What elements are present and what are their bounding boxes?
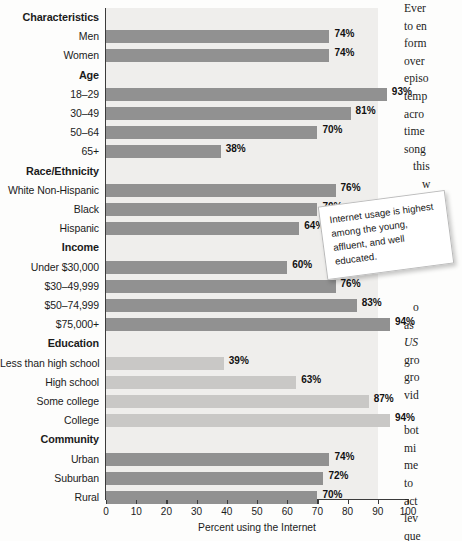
bar <box>106 203 317 216</box>
chart-bar-row: 65+38% <box>0 142 400 161</box>
x-tick-label: 10 <box>131 506 142 517</box>
x-tick-label: 70 <box>312 506 323 517</box>
bar-category-label: Urban <box>0 450 99 469</box>
body-text-line: act <box>404 493 462 511</box>
bar <box>106 126 317 139</box>
group-label: Characteristics <box>0 8 99 27</box>
bar <box>106 88 387 101</box>
body-text-line: this <box>404 158 462 176</box>
x-tick-mark <box>378 500 379 504</box>
bar-value-label: 76% <box>341 278 361 289</box>
chart-group-heading: Age <box>0 66 400 85</box>
x-tick-label: 80 <box>342 506 353 517</box>
chart-bar-row: Urban74% <box>0 450 400 469</box>
bar-category-label: Less than high school <box>0 354 99 373</box>
chart-group-heading: Characteristics <box>0 8 400 27</box>
chart-bar-row: $30–49,99976% <box>0 277 400 296</box>
body-text-line: Ever <box>404 0 462 18</box>
chart-bar-row: High school63% <box>0 373 400 392</box>
group-label: Race/Ethnicity <box>0 162 99 181</box>
x-tick-mark <box>287 500 288 504</box>
group-label: Community <box>0 430 99 449</box>
body-text-line: bot <box>404 422 462 440</box>
body-text-line: acro <box>404 106 462 124</box>
bar <box>106 414 390 427</box>
chart-group-heading: Race/Ethnicity <box>0 162 400 181</box>
bar-category-label: Under $30,000 <box>0 258 99 277</box>
bar-category-label: Men <box>0 27 99 46</box>
bar <box>106 395 369 408</box>
bar <box>106 184 336 197</box>
body-text-line: vid <box>404 387 462 405</box>
chart-bar-row: Some college87% <box>0 392 400 411</box>
bar <box>106 318 390 331</box>
bar-category-label: Suburban <box>0 469 99 488</box>
chart-group-heading: Education <box>0 334 400 353</box>
bar-value-label: 72% <box>328 470 348 481</box>
x-tick-mark <box>136 500 137 504</box>
x-tick-mark <box>348 500 349 504</box>
body-text-line: w <box>404 176 462 194</box>
bar <box>106 145 221 158</box>
body-text-gap <box>404 264 462 282</box>
body-text-gap <box>404 282 462 300</box>
x-tick-label: 30 <box>191 506 202 517</box>
chart-bar-row: 30–4981% <box>0 104 400 123</box>
bar-value-label: 38% <box>226 143 246 154</box>
bar-category-label: 50–64 <box>0 123 99 142</box>
bar <box>106 376 296 389</box>
body-text-gap <box>404 229 462 247</box>
chart-bar-row: Suburban72% <box>0 469 400 488</box>
body-text-line: o <box>404 299 462 317</box>
bar <box>106 357 224 370</box>
body-text-gap <box>404 211 462 229</box>
bar-value-label: 70% <box>322 489 342 500</box>
body-text-line: que <box>404 528 462 541</box>
bar-category-label: $30–49,999 <box>0 277 99 296</box>
x-tick-mark <box>197 500 198 504</box>
x-axis-title: Percent using the Internet <box>105 522 409 533</box>
bar <box>106 107 351 120</box>
x-tick-label: 0 <box>103 506 109 517</box>
chart-bar-row: 18–2993% <box>0 85 400 104</box>
chart-bar-row: 50–6470% <box>0 123 400 142</box>
bar-value-label: 76% <box>341 182 361 193</box>
bar-value-label: 74% <box>334 47 354 58</box>
bar-value-label: 39% <box>229 355 249 366</box>
body-text-line: gro <box>404 369 462 387</box>
bar-value-label: 63% <box>301 374 321 385</box>
bar-category-label: 18–29 <box>0 85 99 104</box>
body-text-line: temp <box>404 88 462 106</box>
bar-category-label: Hispanic <box>0 219 99 238</box>
bar <box>106 261 287 274</box>
x-tick-label: 40 <box>221 506 232 517</box>
bar <box>106 280 336 293</box>
bar-value-label: 74% <box>334 28 354 39</box>
bar-category-label: Some college <box>0 392 99 411</box>
bar-category-label: High school <box>0 373 99 392</box>
bar-value-label: 83% <box>362 297 382 308</box>
x-tick-label: 60 <box>282 506 293 517</box>
group-label: Age <box>0 66 99 85</box>
body-text-gap <box>404 194 462 212</box>
chart-group-heading: Community <box>0 430 400 449</box>
x-tick-label: 90 <box>372 506 383 517</box>
body-text-line: US <box>404 334 462 352</box>
body-text-line: episo <box>404 70 462 88</box>
bar <box>106 30 329 43</box>
bar <box>106 453 329 466</box>
body-text-line: gro <box>404 352 462 370</box>
group-label: Education <box>0 334 99 353</box>
bar-category-label: 30–49 <box>0 104 99 123</box>
chart-bar-row: Men74% <box>0 27 400 46</box>
page-body-text: Everto enformoverepisotempacrotimesongth… <box>404 0 462 541</box>
body-text-line: to en <box>404 18 462 36</box>
x-tick-mark <box>227 500 228 504</box>
chart-bar-row: Women74% <box>0 46 400 65</box>
x-tick-label: 50 <box>251 506 262 517</box>
body-text-line: over <box>404 53 462 71</box>
bar-value-label: 81% <box>356 105 376 116</box>
body-text-line: time <box>404 123 462 141</box>
bar-category-label: $50–74,999 <box>0 296 99 315</box>
body-text-gap <box>404 246 462 264</box>
